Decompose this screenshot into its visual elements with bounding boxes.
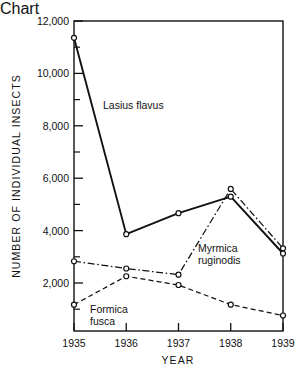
data-point-marker <box>176 272 181 277</box>
y-tick-label: 6,000 <box>43 172 69 184</box>
y-axis-title: NUMBER OF INDIVIDUAL INSECTS <box>10 74 22 278</box>
x-tick-label: 1937 <box>167 337 191 349</box>
chart-figure: 12,000 10,000 8,000 6,000 4,000 2,000 19… <box>0 0 301 380</box>
x-tick-label: 1935 <box>62 337 86 349</box>
y-tick-label: 10,000 <box>37 67 69 79</box>
data-point-marker <box>281 251 286 256</box>
data-point-marker <box>176 211 181 216</box>
y-tick-label: 8,000 <box>43 120 69 132</box>
x-tick-label: 1936 <box>115 337 139 349</box>
series-label-myrmica-ruginodis-line2: ruginodis <box>198 254 241 266</box>
data-point-marker <box>72 259 77 264</box>
data-point-marker <box>124 274 129 279</box>
series-label-formica-fusca-line2: fusca <box>90 315 115 327</box>
data-point-marker <box>228 302 233 307</box>
line-chart: 12,000 10,000 8,000 6,000 4,000 2,000 19… <box>0 0 301 380</box>
x-axis-tick-labels: 1935 1936 1937 1938 1939 <box>62 337 295 349</box>
x-tick-label: 1939 <box>271 337 295 349</box>
series-label-lasius-flavus: Lasius flavus <box>103 99 164 111</box>
series-label-myrmica-ruginodis-line1: Myrmica <box>198 242 238 254</box>
data-point-marker <box>72 302 77 307</box>
y-tick-label: 4,000 <box>43 225 69 237</box>
data-point-marker <box>124 266 129 271</box>
y-axis-tick-labels: 12,000 10,000 8,000 6,000 4,000 2,000 <box>37 15 69 289</box>
series-label-formica-fusca-line1: Formica <box>90 303 128 315</box>
data-point-marker <box>228 186 233 191</box>
data-point-marker <box>281 313 286 318</box>
data-point-marker <box>124 232 129 237</box>
data-point-marker <box>228 194 233 199</box>
y-tick-label: 2,000 <box>43 277 69 289</box>
data-point-marker <box>176 283 181 288</box>
y-tick-label: 12,000 <box>37 15 69 27</box>
x-axis-title: YEAR <box>162 354 195 366</box>
x-tick-label: 1938 <box>219 337 243 349</box>
data-point-marker <box>281 246 286 251</box>
data-point-marker <box>72 35 77 40</box>
